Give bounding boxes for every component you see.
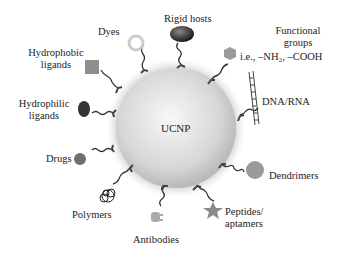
label-hydrophilic-2: ligands [14,110,74,122]
label-dna-rna: DNA/RNA [262,96,310,108]
label-peptides-1: Peptides/ [225,206,264,218]
label-ucnp: UCNP [161,122,190,134]
antibody-icon [151,212,163,222]
rigid-host-icon [170,26,194,42]
label-hydrophilic-1: Hydrophilic [14,98,74,110]
label-polymers: Polymers [72,209,112,221]
label-antibodies: Antibodies [133,234,179,246]
label-functional-groups-3: i.e., –NH₂, –COOH [240,51,322,63]
dyes-icon [129,36,143,50]
dna-icon [249,71,259,125]
functional-group-icon [224,47,236,60]
peptide-icon [203,202,223,219]
label-hydrophobic-1: Hydrophobic [24,47,88,59]
linker-hydrophobic [101,70,118,88]
dendrimer-icon [246,161,264,179]
label-functional-groups-1: Functional [258,25,338,37]
label-functional-groups-2: groups [258,37,338,49]
drug-icon [74,153,86,165]
label-drugs: Drugs [46,153,72,165]
label-dendrimers: Dendrimers [269,170,319,182]
label-dyes: Dyes [98,26,120,38]
hydrophilic-ligand-icon [78,101,90,117]
label-rigid-hosts: Rigid hosts [164,13,212,25]
polymer-icon [100,189,115,202]
label-peptides-2: aptamers [225,218,263,230]
label-hydrophobic-2: ligands [24,59,88,71]
